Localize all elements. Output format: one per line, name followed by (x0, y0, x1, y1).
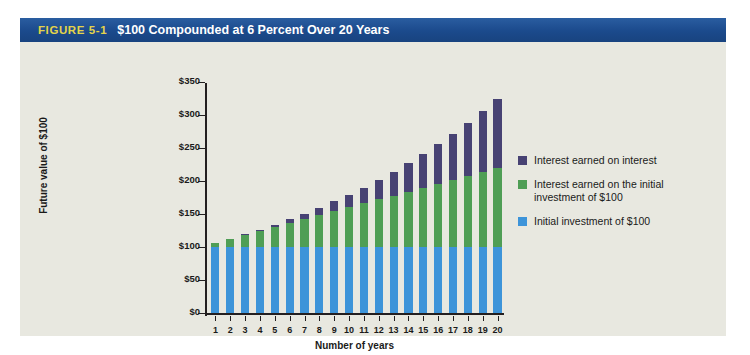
bar-stack (375, 180, 383, 313)
x-axis-tick-label: 1 (213, 325, 218, 335)
x-axis-tick-mark (334, 316, 335, 321)
x-axis-title: Number of years (205, 340, 504, 351)
y-axis-tick-label: $100 (179, 240, 200, 251)
x-axis-tick-mark (438, 316, 439, 321)
x-axis-tick-mark (290, 316, 291, 321)
bar-segment-interest-on-interest (493, 99, 501, 168)
x-axis-tick-mark (453, 316, 454, 321)
bar-segment-interest-on-interest (345, 195, 353, 208)
bar-stack (390, 172, 398, 313)
x-axis-tick-label: 15 (418, 325, 428, 335)
bar-segment-simple-interest (375, 199, 383, 247)
bar-segment-simple-interest (360, 203, 368, 247)
legend-item[interactable]: Initial investment of $100 (518, 215, 708, 228)
bar-segment-initial-investment (286, 247, 294, 313)
bar-stack (345, 195, 353, 313)
x-axis-tick-label: 20 (493, 325, 503, 335)
bar-segment-interest-on-interest (479, 111, 487, 171)
bar-segment-simple-interest (449, 180, 457, 247)
x-axis-tick-mark (215, 316, 216, 321)
figure-title-bar: FIGURE 5-1 $100 Compounded at 6 Percent … (20, 18, 726, 42)
x-axis-tick-mark (379, 316, 380, 321)
legend-item[interactable]: Interest earned on the initial investmen… (518, 178, 708, 204)
x-axis-tick-mark (423, 316, 424, 321)
x-axis-tick-mark (305, 316, 306, 321)
bar-segment-initial-investment (434, 247, 442, 313)
x-axis-tick-mark (498, 316, 499, 321)
bar-stack (226, 239, 234, 313)
bar-segment-initial-investment (226, 247, 234, 313)
legend-item-label: Interest earned on the initial investmen… (534, 178, 708, 204)
bar-segment-initial-investment (449, 247, 457, 313)
bar-stack (286, 219, 294, 313)
bar-stack (434, 144, 442, 313)
legend-color-swatch (518, 180, 527, 189)
bar-stack (256, 230, 264, 313)
bar-segment-interest-on-interest (434, 144, 442, 183)
x-axis-tick-label: 12 (374, 325, 384, 335)
x-axis-tick-mark (319, 316, 320, 321)
bar-segment-simple-interest (256, 231, 264, 247)
bar-segment-interest-on-interest (390, 172, 398, 196)
x-axis-tick-mark (230, 316, 231, 321)
bar-stack (241, 234, 249, 313)
x-axis-tick-label: 19 (478, 325, 488, 335)
bar-segment-interest-on-interest (464, 123, 472, 176)
bar-segment-initial-investment (390, 247, 398, 313)
bar-segment-simple-interest (315, 215, 323, 247)
legend-item-label: Interest earned on interest (534, 154, 657, 167)
bar-segment-initial-investment (419, 247, 427, 313)
x-axis-tick-label: 13 (389, 325, 399, 335)
bar-stack (493, 99, 501, 313)
bar-segment-interest-on-interest (449, 134, 457, 180)
bar-segment-initial-investment (256, 247, 264, 313)
x-axis-tick-label: 3 (243, 325, 248, 335)
bar-segment-initial-investment (241, 247, 249, 313)
x-axis-tick-label: 18 (463, 325, 473, 335)
chart-panel: Future value of $100 $0$50$100$150$200$2… (20, 42, 726, 336)
bar-segment-initial-investment (404, 247, 412, 313)
bar-segment-simple-interest (390, 196, 398, 247)
bar-segment-initial-investment (300, 247, 308, 313)
x-axis-tick-mark (349, 316, 350, 321)
plot-area: $0$50$100$150$200$250$300$350 1234567891… (205, 83, 503, 315)
bar-stack (271, 225, 279, 313)
y-axis-tick-label: $50 (184, 273, 200, 284)
bar-segment-interest-on-interest (375, 180, 383, 199)
bar-segment-simple-interest (434, 184, 442, 247)
legend-item[interactable]: Interest earned on interest (518, 154, 708, 167)
bar-stack (211, 243, 219, 313)
bar-segment-simple-interest (419, 188, 427, 247)
y-axis-tick-label: $200 (179, 174, 200, 185)
x-axis-tick-mark (364, 316, 365, 321)
x-axis-tick-label: 6 (287, 325, 292, 335)
x-axis-tick-label: 17 (448, 325, 458, 335)
x-axis-tick-label: 11 (359, 325, 369, 335)
bar-segment-simple-interest (300, 219, 308, 247)
x-axis-tick-mark (394, 316, 395, 321)
x-axis-tick-label: 5 (272, 325, 277, 335)
bar-segment-simple-interest (241, 235, 249, 247)
bar-segment-initial-investment (315, 247, 323, 313)
figure-number-label: FIGURE 5-1 (38, 24, 107, 36)
bar-segment-simple-interest (286, 223, 294, 247)
y-axis-tick-label: $0 (189, 306, 200, 317)
bar-segment-simple-interest (345, 207, 353, 247)
bar-stack (479, 111, 487, 313)
bar-stack (464, 123, 472, 313)
bar-stack (330, 201, 338, 313)
x-axis-tick-label: 8 (317, 325, 322, 335)
x-axis-tick-mark (275, 316, 276, 321)
x-axis-tick-label: 14 (403, 325, 413, 335)
chart-legend: Interest earned on interestInterest earn… (518, 154, 708, 239)
bar-segment-simple-interest (464, 176, 472, 247)
bar-segment-interest-on-interest (404, 163, 412, 191)
bar-segment-initial-investment (330, 247, 338, 313)
y-axis-title: Future value of $100 (38, 91, 49, 241)
legend-color-swatch (518, 156, 527, 165)
x-axis-tick-mark (260, 316, 261, 321)
x-axis-tick-mark (483, 316, 484, 321)
bar-segment-simple-interest (330, 211, 338, 247)
bar-stack (315, 208, 323, 313)
legend-color-swatch (518, 217, 527, 226)
